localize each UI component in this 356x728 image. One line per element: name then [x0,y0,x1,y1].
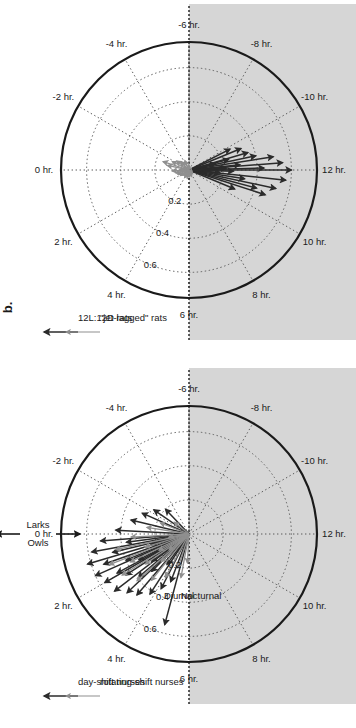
angle-tick--6hr: -6 hr. [178,19,200,30]
radial-tick-0.2: 0.2 [168,195,181,206]
radial-tick-0.2: 0.2 [168,559,181,570]
radial-tick-0.4: 0.4 [156,227,169,238]
polar-spoke-4hr [125,170,189,281]
polar-spoke--4hr [125,423,189,534]
radial-tick-0.6: 0.6 [144,623,157,634]
panel-a: a. 0 hr.2 hr.4 hr.6 hr.8 hr.10 hr.12 hr.… [0,364,356,728]
angle-tick-4hr: 4 hr. [107,653,126,664]
angle-tick-8hr: 8 hr. [252,653,271,664]
polar-plot-b: 0 hr.2 hr.4 hr.6 hr.8 hr.10 hr.12 hr.-10… [4,4,356,360]
angle-tick-2hr: 2 hr. [54,600,73,611]
angle-tick--2hr: -2 hr. [53,455,75,466]
angle-tick-2hr: 2 hr. [54,236,73,247]
angle-tick-12hr: 12 hr. [322,528,346,539]
angle-tick-8hr: 8 hr. [252,289,271,300]
legend-label-2: rotating-shift nurses [100,676,184,687]
angle-tick--2hr: -2 hr. [53,91,75,102]
polar-spoke--2hr [78,470,189,534]
annotation-owls: Owls [27,537,48,548]
angle-tick--10hr: -10 hr. [301,455,328,466]
angle-tick--6hr: -6 hr. [178,383,200,394]
panel-b: b. 0 hr.2 hr.4 hr.6 hr.8 hr.10 hr.12 hr.… [0,0,356,364]
angle-tick-10hr: 10 hr. [303,600,327,611]
angle-tick--4hr: -4 hr. [106,38,128,49]
polar-spoke--2hr [78,106,189,170]
vector-arrow [188,165,189,170]
polar-plot-a: 0 hr.2 hr.4 hr.6 hr.8 hr.10 hr.12 hr.-10… [4,368,356,724]
angle-tick-12hr: 12 hr. [322,164,346,175]
angle-tick-10hr: 10 hr. [303,236,327,247]
zone-label-nocturnal: Nocturnal [181,590,222,601]
angle-tick-6hr: 6 hr. [180,309,199,320]
figure-root: b. 0 hr.2 hr.4 hr.6 hr.8 hr.10 hr.12 hr.… [0,0,356,728]
plot-a-content: 0 hr.2 hr.4 hr.6 hr.8 hr.10 hr.12 hr.-10… [0,368,356,704]
polar-spoke--4hr [125,59,189,170]
legend-label-2: "jet-lagged" rats [100,312,167,323]
angle-tick--8hr: -8 hr. [251,38,273,49]
annotation-larks: Larks [26,519,49,530]
panel-a-rotated-canvas: 0 hr.2 hr.4 hr.6 hr.8 hr.10 hr.12 hr.-10… [4,368,356,724]
angle-tick--4hr: -4 hr. [106,402,128,413]
angle-tick-4hr: 4 hr. [107,289,126,300]
angle-tick--8hr: -8 hr. [251,402,273,413]
plot-b-content: 0 hr.2 hr.4 hr.6 hr.8 hr.10 hr.12 hr.-10… [35,4,356,340]
angle-tick--10hr: -10 hr. [301,91,328,102]
angle-tick-0hr: 0 hr. [35,164,54,175]
radial-tick-0.6: 0.6 [144,259,157,270]
panel-b-rotated-canvas: 0 hr.2 hr.4 hr.6 hr.8 hr.10 hr.12 hr.-10… [4,4,356,360]
